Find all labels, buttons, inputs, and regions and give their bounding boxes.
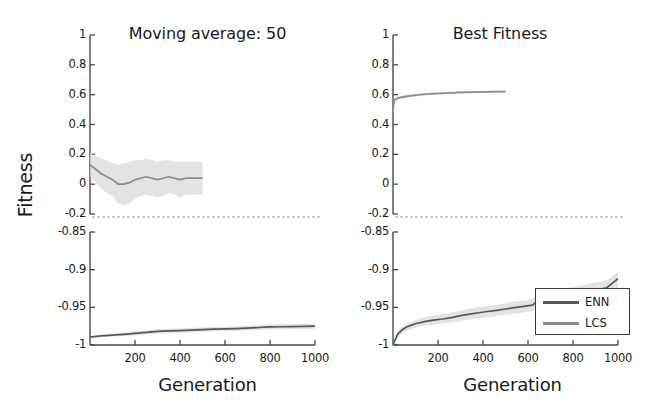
figure-container: Fitness Moving average: 50 Best Fitness …	[0, 0, 652, 409]
y-tick-upper-6: -0.2	[345, 206, 389, 220]
y-tick-upper-2: 0.6	[345, 87, 389, 101]
x-tick-1-1: 400	[459, 351, 507, 365]
y-tick-upper-1: 0.8	[345, 57, 389, 71]
legend-swatch-enn	[543, 301, 579, 304]
y-tick-lower-1: -0.9	[345, 262, 389, 276]
legend-swatch-lcs	[543, 322, 579, 325]
y-tick-lower-0: -0.85	[345, 224, 389, 238]
x-tick-0-0: 200	[111, 351, 159, 365]
y-tick-upper-3: 0.4	[42, 117, 86, 131]
y-tick-upper-0: 1	[42, 27, 86, 41]
x-tick-0-2: 600	[201, 351, 249, 365]
legend-label-enn: ENN	[585, 295, 609, 309]
x-tick-1-4: 1000	[594, 351, 642, 365]
y-tick-lower-3: -1	[345, 337, 389, 351]
y-tick-upper-3: 0.4	[345, 117, 389, 131]
y-tick-lower-1: -0.9	[42, 262, 86, 276]
x-tick-1-3: 800	[549, 351, 597, 365]
x-tick-0-3: 800	[246, 351, 294, 365]
y-tick-lower-2: -0.95	[345, 299, 389, 313]
x-tick-1-0: 200	[414, 351, 462, 365]
y-tick-upper-5: 0	[345, 176, 389, 190]
x-tick-1-2: 600	[504, 351, 552, 365]
confidence-band-enn	[90, 324, 315, 339]
y-tick-upper-1: 0.8	[42, 57, 86, 71]
y-tick-lower-3: -1	[42, 337, 86, 351]
y-tick-upper-4: 0.2	[42, 146, 86, 160]
series-line-lcs	[393, 92, 506, 110]
y-tick-lower-2: -0.95	[42, 299, 86, 313]
x-tick-0-1: 400	[156, 351, 204, 365]
y-tick-upper-6: -0.2	[42, 206, 86, 220]
legend-entry-enn: ENN	[543, 295, 609, 309]
confidence-band-lcs	[393, 91, 506, 117]
legend-entry-lcs: LCS	[543, 316, 607, 330]
y-tick-upper-5: 0	[42, 176, 86, 190]
y-tick-lower-0: -0.85	[42, 224, 86, 238]
y-tick-upper-2: 0.6	[42, 87, 86, 101]
legend-label-lcs: LCS	[585, 316, 607, 330]
plot-canvas	[0, 0, 652, 409]
y-tick-upper-4: 0.2	[345, 146, 389, 160]
x-tick-0-4: 1000	[291, 351, 339, 365]
y-tick-upper-0: 1	[345, 27, 389, 41]
